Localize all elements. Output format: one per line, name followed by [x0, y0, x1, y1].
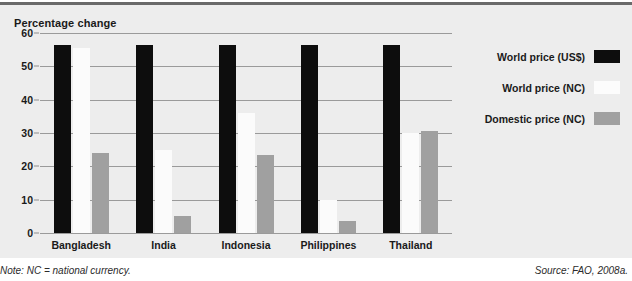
y-tick-dash-20: [34, 166, 39, 167]
y-tick-dash-40: [34, 99, 39, 100]
y-tick-label-40: 40: [21, 94, 33, 106]
y-tick-label-30: 30: [21, 127, 33, 139]
bar-indonesia-world-price-us: [219, 45, 236, 233]
legend-item-world-price-us: World price (US$): [470, 41, 620, 72]
legend-label: World price (US$): [497, 51, 585, 63]
legend: World price (US$)World price (NC)Domesti…: [470, 41, 620, 134]
chart-panel: Percentage change 0102030405060 Banglade…: [0, 5, 632, 258]
bar-bangladesh-domestic-price-nc: [92, 153, 109, 233]
y-tick-dash-50: [34, 66, 39, 67]
plot-area: 0102030405060 BangladeshIndiaIndonesiaPh…: [40, 33, 452, 243]
bar-india-world-price-nc: [155, 150, 172, 233]
gridline-0: [40, 233, 452, 234]
x-category-label-philippines: Philippines: [300, 239, 356, 251]
bar-philippines-world-price-nc: [320, 200, 337, 233]
legend-item-domestic-price-nc: Domestic price (NC): [470, 103, 620, 134]
bar-bangladesh-world-price-us: [54, 45, 71, 233]
y-tick-dash-30: [34, 133, 39, 134]
y-tick-label-20: 20: [21, 160, 33, 172]
bar-indonesia-world-price-nc: [238, 113, 255, 233]
y-tick-label-10: 10: [21, 194, 33, 206]
x-category-label-bangladesh: Bangladesh: [51, 239, 111, 251]
legend-swatch: [594, 50, 620, 63]
legend-label: Domestic price (NC): [485, 113, 585, 125]
bar-india-world-price-us: [136, 45, 153, 233]
y-tick-label-50: 50: [21, 60, 33, 72]
bar-philippines-world-price-us: [301, 45, 318, 233]
figure-chart: Percentage change 0102030405060 Banglade…: [0, 0, 632, 281]
bar-philippines-domestic-price-nc: [339, 221, 356, 233]
y-tick-dash-10: [34, 199, 39, 200]
x-category-label-thailand: Thailand: [389, 239, 432, 251]
x-category-label-indonesia: Indonesia: [221, 239, 270, 251]
y-tick-dash-60: [34, 33, 39, 34]
footnote-source: Source: FAO, 2008a.: [535, 265, 628, 276]
legend-label: World price (NC): [502, 82, 585, 94]
bar-thailand-world-price-us: [383, 45, 400, 233]
y-tick-label-60: 60: [21, 27, 33, 39]
footnote-note: Note: NC = national currency.: [0, 265, 131, 276]
y-tick-dash-0: [34, 233, 39, 234]
legend-swatch: [594, 112, 620, 125]
legend-swatch: [594, 81, 620, 94]
bars-group: [40, 33, 452, 233]
bar-thailand-world-price-nc: [402, 133, 419, 233]
y-tick-label-0: 0: [27, 227, 33, 239]
bar-india-domestic-price-nc: [174, 216, 191, 233]
bar-bangladesh-world-price-nc: [73, 48, 90, 233]
bar-indonesia-domestic-price-nc: [257, 155, 274, 233]
bar-thailand-domestic-price-nc: [421, 131, 438, 233]
x-category-label-india: India: [151, 239, 176, 251]
legend-item-world-price-nc: World price (NC): [470, 72, 620, 103]
